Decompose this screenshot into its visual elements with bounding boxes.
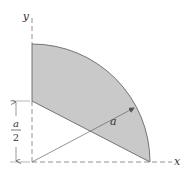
dimension-numerator: a (13, 118, 19, 129)
dimension-denominator: 2 (13, 132, 19, 143)
diagram-canvas: y x a a 2 (0, 0, 188, 177)
x-axis-label: x (174, 155, 181, 168)
y-axis-label: y (22, 10, 30, 23)
shaded-region (32, 44, 150, 162)
radius-label: a (110, 115, 117, 128)
